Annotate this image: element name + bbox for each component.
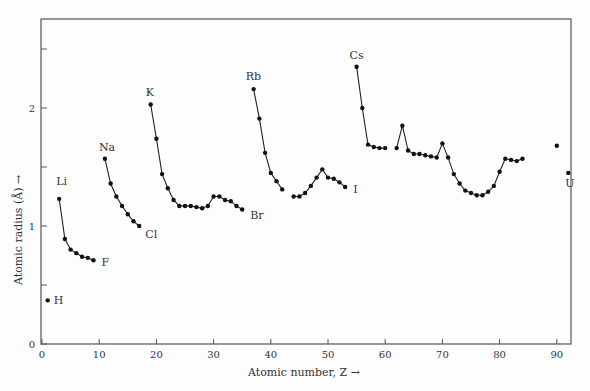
data-point xyxy=(354,65,358,69)
data-point xyxy=(503,157,507,161)
data-point xyxy=(103,157,107,161)
data-point xyxy=(440,141,444,145)
data-point xyxy=(274,179,278,183)
data-point xyxy=(486,190,490,194)
data-point xyxy=(515,159,519,163)
element-label: Na xyxy=(99,141,116,154)
data-point xyxy=(234,204,238,208)
data-point xyxy=(120,204,124,208)
x-axis-label: Atomic number, Z → xyxy=(247,366,360,379)
data-point xyxy=(332,177,336,181)
data-point xyxy=(240,207,244,211)
data-point xyxy=(434,155,438,159)
data-point xyxy=(372,145,376,149)
data-point xyxy=(326,175,330,179)
data-point xyxy=(269,171,273,175)
data-point xyxy=(366,142,370,146)
x-tick-label: 80 xyxy=(493,349,506,360)
data-point xyxy=(114,194,118,198)
data-point xyxy=(452,172,456,176)
element-label: Rb xyxy=(246,70,261,83)
element-label: F xyxy=(101,256,109,269)
data-point xyxy=(257,116,261,120)
data-point xyxy=(206,204,210,208)
data-point xyxy=(223,198,227,202)
data-point xyxy=(211,194,215,198)
data-point xyxy=(263,151,267,155)
series-line xyxy=(254,89,283,189)
element-label: H xyxy=(54,294,64,307)
data-point xyxy=(463,188,467,192)
element-labels: HLiFNaClKBrRbICsU xyxy=(54,49,575,308)
data-point xyxy=(148,102,152,106)
data-point xyxy=(566,171,570,175)
data-point xyxy=(200,206,204,210)
element-label: I xyxy=(353,183,357,196)
data-point xyxy=(320,167,324,171)
data-point xyxy=(171,198,175,202)
data-point xyxy=(337,180,341,184)
x-tick-label: 40 xyxy=(264,349,277,360)
data-point xyxy=(492,184,496,188)
element-label: U xyxy=(565,177,574,190)
x-tick-label: 0 xyxy=(39,349,45,360)
data-point xyxy=(137,224,141,228)
data-point xyxy=(406,148,410,152)
data-point xyxy=(314,175,318,179)
series-line xyxy=(105,159,139,226)
element-label: Cl xyxy=(145,228,157,241)
data-point xyxy=(160,172,164,176)
y-tick-label: 0 xyxy=(29,339,35,350)
data-point xyxy=(74,251,78,255)
data-point xyxy=(417,152,421,156)
data-point xyxy=(63,237,67,241)
data-point xyxy=(46,298,50,302)
data-point xyxy=(91,258,95,262)
data-point xyxy=(509,158,513,162)
data-point xyxy=(57,197,61,201)
data-point xyxy=(480,193,484,197)
data-point xyxy=(68,247,72,251)
data-point xyxy=(166,186,170,190)
x-tick-label: 60 xyxy=(379,349,392,360)
data-point xyxy=(520,157,524,161)
data-point xyxy=(429,154,433,158)
data-point xyxy=(217,194,221,198)
x-tick-label: 50 xyxy=(322,349,335,360)
x-tick-label: 90 xyxy=(550,349,563,360)
data-point xyxy=(412,152,416,156)
data-point xyxy=(154,136,158,140)
element-label: Br xyxy=(250,209,264,222)
data-point xyxy=(475,193,479,197)
data-point xyxy=(126,212,130,216)
data-point xyxy=(189,204,193,208)
series-line xyxy=(151,105,243,210)
x-tick-label: 30 xyxy=(207,349,220,360)
data-point xyxy=(303,191,307,195)
data-point xyxy=(400,124,404,128)
data-point xyxy=(80,254,84,258)
y-axis-label: Atomic radius (Å) → xyxy=(11,175,25,286)
data-point xyxy=(108,181,112,185)
atomic-radius-chart: 0102030405060708090012 HLiFNaClKBrRbICsU… xyxy=(0,0,590,391)
y-tick-label: 2 xyxy=(29,103,35,114)
y-tick-label: 1 xyxy=(29,221,35,232)
data-point xyxy=(309,184,313,188)
data-point xyxy=(280,187,284,191)
element-label: K xyxy=(146,86,155,99)
axis-ticks: 0102030405060708090012 xyxy=(29,49,564,360)
data-point xyxy=(194,205,198,209)
data-series xyxy=(46,65,571,303)
data-point xyxy=(469,191,473,195)
x-tick-label: 10 xyxy=(93,349,106,360)
element-label: Cs xyxy=(350,49,364,62)
data-point xyxy=(423,153,427,157)
data-point xyxy=(343,185,347,189)
data-point xyxy=(555,144,559,148)
data-point xyxy=(86,256,90,260)
x-tick-label: 70 xyxy=(436,349,449,360)
data-point xyxy=(457,181,461,185)
data-point xyxy=(229,199,233,203)
x-tick-label: 20 xyxy=(150,349,163,360)
data-point xyxy=(251,87,255,91)
